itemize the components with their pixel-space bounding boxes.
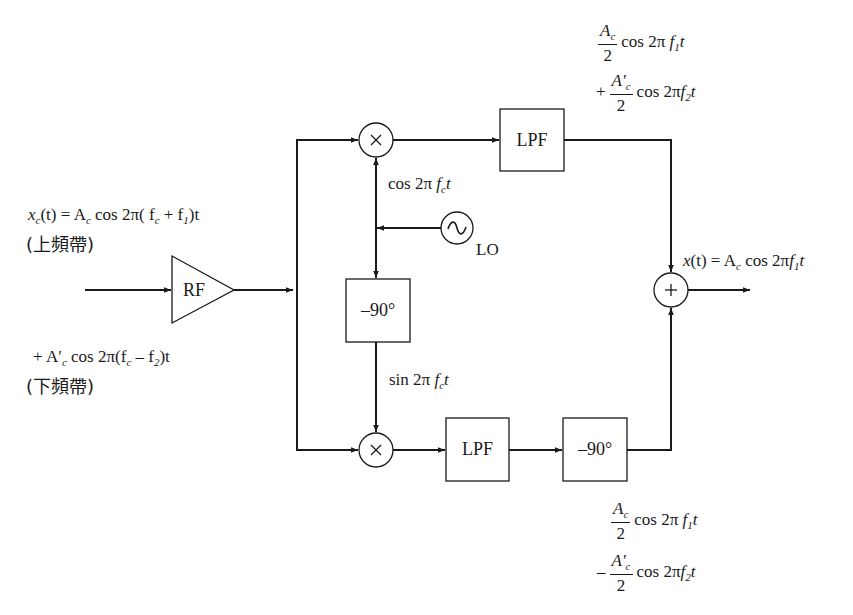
input-signal-upper-band: xc(t) = Ac cos 2π( fc + f1)t bbox=[28, 206, 199, 226]
block-diagram-canvas bbox=[0, 0, 853, 615]
upper-branch-output-term2: +A′c2cos 2πf2t bbox=[596, 72, 696, 114]
input-signal-lower-band: + A′c cos 2π(fc – f2)t bbox=[33, 348, 170, 368]
sin-carrier-label: sin 2π fct bbox=[389, 371, 449, 391]
lower-phase-shift-label: –90° bbox=[563, 418, 627, 481]
upper-lpf-to-summer-line bbox=[564, 140, 671, 272]
multiply-icon-upper bbox=[371, 135, 381, 145]
sine-wave-icon bbox=[448, 222, 466, 234]
final-output-label: x(t) = Ac cos 2πf1t bbox=[683, 252, 804, 272]
upper-branch-output-term1: Ac2cos 2π f1t bbox=[598, 22, 685, 64]
lower-branch-output-term2: –A′c2cos 2πf2t bbox=[597, 552, 695, 594]
upper-lpf-label: LPF bbox=[500, 109, 564, 171]
oscillator-label: LO bbox=[476, 241, 499, 258]
plus-icon bbox=[665, 284, 677, 296]
lower-branch-to-summer-line bbox=[627, 308, 671, 450]
multiply-icon-lower bbox=[371, 445, 381, 455]
upper-band-label: (上頻帶) bbox=[26, 236, 94, 254]
lower-band-label: (下頻帶) bbox=[26, 378, 94, 396]
lower-lpf-label: LPF bbox=[446, 418, 509, 481]
lower-branch-output-term1: Ac2cos 2π f1t bbox=[611, 500, 698, 542]
rf-label: RF bbox=[172, 278, 216, 302]
lo-phase-shift-label: –90° bbox=[346, 279, 410, 342]
cos-carrier-label: cos 2π fct bbox=[388, 175, 451, 195]
